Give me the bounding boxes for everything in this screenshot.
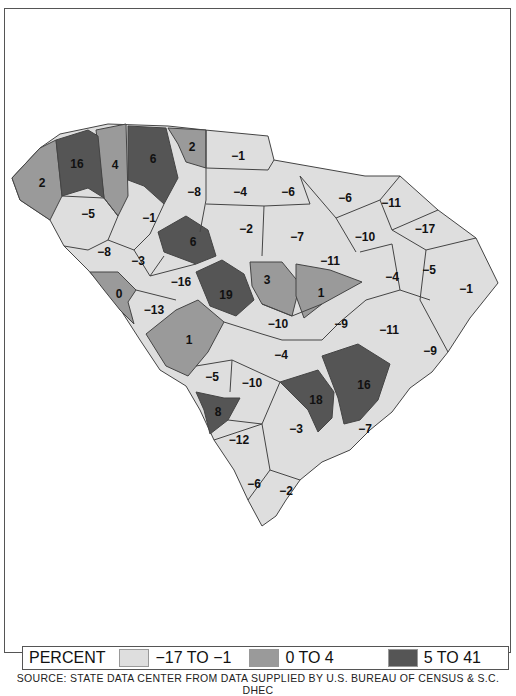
county-value-label: −3 [289,422,303,436]
county-value-label: −8 [97,245,111,259]
county-value-label: −5 [205,370,219,384]
county-value-label: −1 [231,149,245,163]
county-value-label: 1 [318,286,325,300]
county-value-label: 16 [357,378,371,392]
legend-item-mid: 0 TO 4 [249,649,333,667]
county-value-label: −4 [385,270,399,284]
legend-label-mid: 0 TO 4 [285,649,333,667]
county-value-label: −3 [131,254,145,268]
legend-swatch-high [388,649,418,667]
county-value-label: −5 [81,207,95,221]
county-value-label: −4 [233,185,247,199]
county-value-label: 6 [150,152,157,166]
county-oconee [12,140,62,220]
legend: PERCENT −17 TO −1 0 TO 4 5 TO 41 [22,646,509,670]
county-value-label: 0 [116,287,123,301]
county-value-label: −5 [422,263,436,277]
legend-label-high: 5 TO 41 [424,649,481,667]
county-value-label: 6 [190,235,197,249]
legend-item-low: −17 TO −1 [119,649,231,667]
county-value-label: 16 [70,157,84,171]
county-value-label: 18 [309,393,323,407]
county-value-label: 2 [189,140,196,154]
county-value-label: 2 [39,176,46,190]
county-value-label: −1 [142,211,156,225]
county-value-label: −7 [358,422,372,436]
county-value-label: −2 [279,484,293,498]
county-value-label: −8 [187,185,201,199]
county-value-label: 1 [186,333,193,347]
county-value-label: −17 [415,222,436,236]
county-value-label: −16 [171,275,192,289]
county-value-label: 19 [219,288,233,302]
legend-label-low: −17 TO −1 [155,649,231,667]
legend-title: PERCENT [29,649,105,667]
county-value-label: −6 [281,185,295,199]
county-value-label: −13 [144,303,165,317]
county-value-label: 3 [264,273,271,287]
legend-swatch-mid [249,649,279,667]
county-value-label: −7 [290,230,304,244]
county-value-label: 4 [112,158,119,172]
legend-swatch-low [119,649,149,667]
county-value-label: −9 [423,344,437,358]
county-value-label: −11 [320,254,340,268]
county-value-label: 8 [215,405,222,419]
county-value-label: −1 [459,282,473,296]
county-value-label: −10 [268,317,289,331]
county-value-label: −10 [355,230,376,244]
county-value-label: −4 [274,348,288,362]
county-value-label: −2 [239,222,253,236]
county-value-label: −11 [381,196,401,210]
county-value-label: −6 [247,477,261,491]
county-value-label: −6 [338,191,352,205]
county-value-label: −9 [334,317,348,331]
county-value-label: −10 [242,376,263,390]
county-value-label: −11 [379,323,399,337]
county-value-label: −12 [229,433,250,447]
legend-item-high: 5 TO 41 [388,649,481,667]
source-note: SOURCE: STATE DATA CENTER FROM DATA SUPP… [0,672,516,696]
